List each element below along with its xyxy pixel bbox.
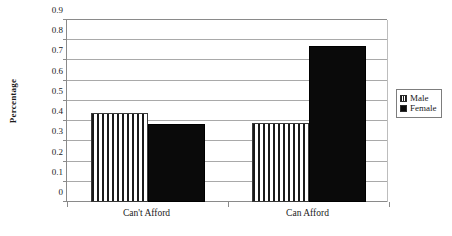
x-axis-tick-mark [67,202,68,207]
y-axis-tick-label: 0.4 [5,106,63,116]
y-axis-tick-label: 0.8 [5,25,63,35]
legend-item-label: Female [410,104,437,113]
legend-item-male[interactable]: Male [400,94,437,103]
bar-female-group-0 [148,124,205,202]
y-axis-tick-label: 0.1 [5,167,63,177]
chart-legend: MaleFemale [396,89,442,118]
x-axis-tick-mark [389,202,390,207]
x-axis-category-label: Can't Afford [87,208,207,218]
legend-item-female[interactable]: Female [400,104,437,113]
bar-female-group-1 [309,46,366,202]
y-axis-tick-label: 0.9 [5,5,63,15]
bar-series-group [67,20,387,202]
y-axis-tick-label: 0 [5,187,63,197]
y-axis-tick-label: 0.2 [5,147,63,157]
striped-swatch-icon [400,95,407,102]
x-axis-category-label: Can Afford [248,208,368,218]
solid-swatch-icon [400,105,407,112]
y-axis-tick-label: 0.3 [5,126,63,136]
y-axis-tick-label: 0.6 [5,66,63,76]
bar-male-group-0 [91,113,148,202]
x-axis-tick-mark [228,202,229,207]
bar-male-group-1 [252,123,309,202]
chart-screenshot: Percentage 0.90.80.70.60.50.40.30.20.10 … [0,0,452,236]
y-axis-tick-label: 0.5 [5,86,63,96]
plot-area: 0.90.80.70.60.50.40.30.20.10 [66,20,388,202]
y-axis-tick-label: 0.7 [5,45,63,55]
legend-item-label: Male [410,94,429,103]
